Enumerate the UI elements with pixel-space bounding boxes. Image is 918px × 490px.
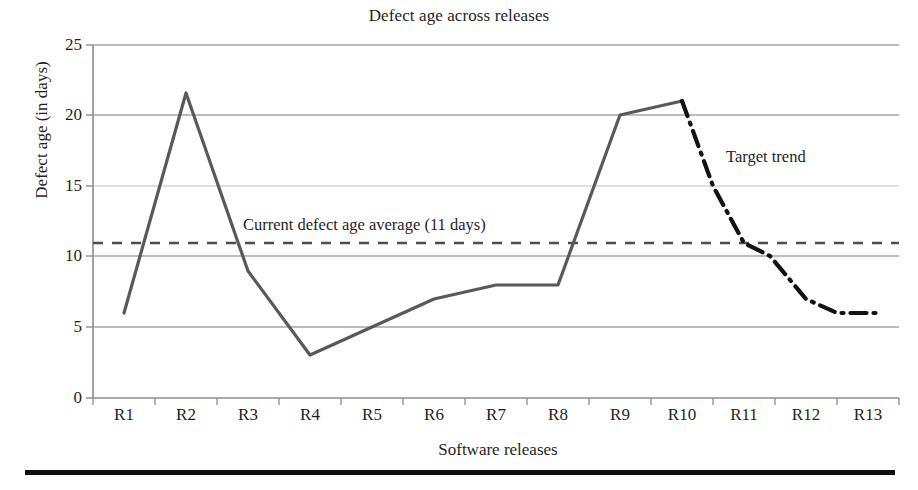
x-axis-ticks <box>93 398 899 405</box>
x-axis-title: Software releases <box>93 440 903 460</box>
axis-lines <box>93 45 899 398</box>
annotation-average-label: Current defect age average (11 days) <box>243 215 486 235</box>
chart-figure: Defect age across releases Defect age (i… <box>0 0 918 490</box>
target-trend-line <box>682 101 880 313</box>
y-axis-ticks <box>86 45 93 398</box>
plot-area <box>0 0 918 490</box>
bottom-divider-rule <box>25 470 895 475</box>
annotation-target-trend-label: Target trend <box>726 147 806 167</box>
